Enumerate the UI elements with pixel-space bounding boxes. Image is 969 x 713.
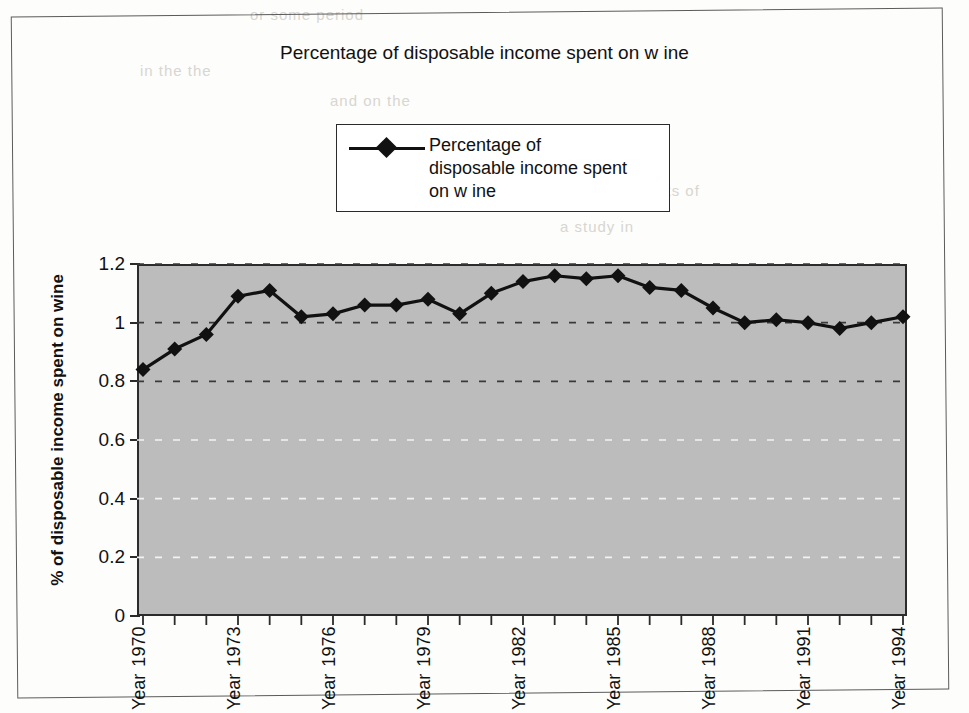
data-point-marker [326, 306, 341, 321]
data-point-marker [547, 268, 562, 283]
y-axis-tick-label: 1.2 [65, 253, 125, 275]
chart-legend: Percentage of disposable income spent on… [336, 124, 670, 212]
chart-page: or some period in the the and on the the… [0, 0, 969, 713]
data-point-marker [421, 292, 436, 307]
chart-title: Percentage of disposable income spent on… [0, 42, 969, 64]
plot-area [137, 264, 907, 616]
x-axis-tick-label: Year1988 [699, 627, 720, 710]
x-axis-tick-label: Year1973 [224, 627, 245, 710]
x-axis-tick-label: Year1979 [414, 627, 435, 710]
x-axis-tick-label: Year1985 [604, 627, 625, 710]
data-point-marker [801, 315, 816, 330]
data-point-marker [579, 271, 594, 286]
x-axis-tick-label: Year1982 [509, 627, 530, 710]
legend-marker-icon [349, 137, 425, 159]
legend-entry-label: Percentage of disposable income spent on… [429, 134, 627, 203]
series-line-chart [137, 264, 907, 616]
y-axis-tick-label: 0.2 [65, 546, 125, 568]
y-axis-tick-label: 0 [65, 605, 125, 627]
data-point-marker [737, 315, 752, 330]
data-point-marker [769, 312, 784, 327]
x-axis-tick-label: Year1991 [794, 627, 815, 710]
y-axis-tick-label: 1 [65, 312, 125, 334]
data-point-marker [357, 298, 372, 313]
data-point-marker [389, 298, 404, 313]
x-axis-tick-label: Year1976 [319, 627, 340, 710]
data-point-marker [864, 315, 879, 330]
y-axis-tick-label: 0.8 [65, 370, 125, 392]
data-point-marker [611, 268, 626, 283]
x-axis-tick-label: Year1970 [129, 627, 150, 710]
y-axis-tick-label: 0.6 [65, 429, 125, 451]
data-point-marker [706, 301, 721, 316]
x-axis-labels: Year1970Year1973Year1976Year1979Year1982… [137, 620, 907, 710]
y-axis-tick-label: 0.4 [65, 488, 125, 510]
data-point-marker [516, 274, 531, 289]
x-axis-tick-label: Year1994 [889, 627, 910, 710]
data-point-marker [642, 280, 657, 295]
data-point-marker [674, 283, 689, 298]
y-axis-ticks: 00.20.40.60.811.2 [63, 264, 125, 616]
